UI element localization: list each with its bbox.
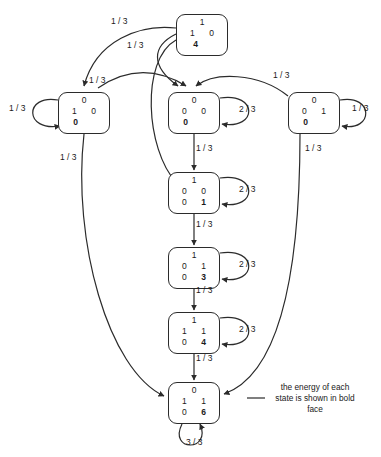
transition-probability-label: 1 / 3: [196, 285, 213, 295]
markov-chain-diagram: 11 0401 0000 0000 1010 00 110 10 311 10 …: [0, 0, 381, 457]
transition-probability-label: 2 / 3: [239, 184, 256, 194]
state-energy: 0 4: [169, 338, 219, 347]
transition-probability-label: 1 / 3: [305, 143, 322, 153]
state-row-top: 1: [177, 18, 227, 27]
selfloop-left: [33, 99, 60, 126]
edge-top-to-c1: [158, 34, 179, 86]
state-row-top: 1: [169, 176, 219, 185]
state-row-top: 0: [289, 96, 339, 105]
state-energy: 0 3: [169, 273, 219, 282]
transition-probability-label: 1 / 3: [127, 40, 144, 50]
caption-text: the energy of each state is shown in bol…: [253, 382, 377, 415]
state-energy: 0 6: [169, 408, 219, 417]
transition-probability-label: 2 / 3: [239, 104, 256, 114]
state-node: 11 04: [176, 14, 228, 56]
transition-probability-label: 1 / 3: [89, 75, 106, 85]
state-row-top: 0: [59, 96, 109, 105]
state-row-middle: 0 0: [169, 107, 219, 116]
state-row-top: 0: [169, 386, 219, 395]
edge-right-to-bottom: [224, 134, 300, 394]
state-energy: 0: [289, 118, 339, 127]
transition-probability-label: 1 / 3: [60, 152, 77, 162]
transition-probability-label: 1 / 3: [9, 103, 26, 113]
state-energy: 4: [177, 40, 227, 49]
state-row-middle: 1 1: [169, 327, 219, 336]
state-node: 00 00: [168, 92, 220, 134]
state-energy: 0: [169, 118, 219, 127]
state-node: 10 10 3: [168, 247, 220, 289]
transition-probability-label: 1 / 3: [196, 353, 213, 363]
state-row-middle: 0 0: [169, 187, 219, 196]
transition-probability-label: 3 / 3: [186, 437, 203, 447]
transition-probability-label: 1 / 3: [352, 103, 369, 113]
state-row-top: 1: [169, 251, 219, 260]
state-row-top: 1: [169, 316, 219, 325]
state-row-middle: 1 0: [59, 107, 109, 116]
state-row-middle: 1 1: [169, 397, 219, 406]
state-node: 01 10 6: [168, 382, 220, 424]
transition-probability-label: 1 / 3: [196, 143, 213, 153]
state-node: 10 00 1: [168, 172, 220, 214]
state-node: 01 00: [58, 92, 110, 134]
transition-probability-label: 1 / 3: [196, 219, 213, 229]
state-row-middle: 0 1: [169, 262, 219, 271]
transition-probability-label: 2 / 3: [239, 324, 256, 334]
state-energy: 0 1: [169, 198, 219, 207]
state-node: 00 10: [288, 92, 340, 134]
state-energy: 0: [59, 118, 109, 127]
state-row-top: 0: [169, 96, 219, 105]
state-node: 11 10 4: [168, 312, 220, 354]
edge-left-to-bottom: [82, 134, 164, 396]
transition-probability-label: 1 / 3: [273, 70, 290, 80]
edge-left-to-c1: [98, 73, 186, 88]
state-row-middle: 0 1: [289, 107, 339, 116]
state-row-middle: 1 0: [177, 29, 227, 38]
transition-probability-label: 1 / 3: [111, 16, 128, 26]
transition-probability-label: 2 / 3: [239, 259, 256, 269]
